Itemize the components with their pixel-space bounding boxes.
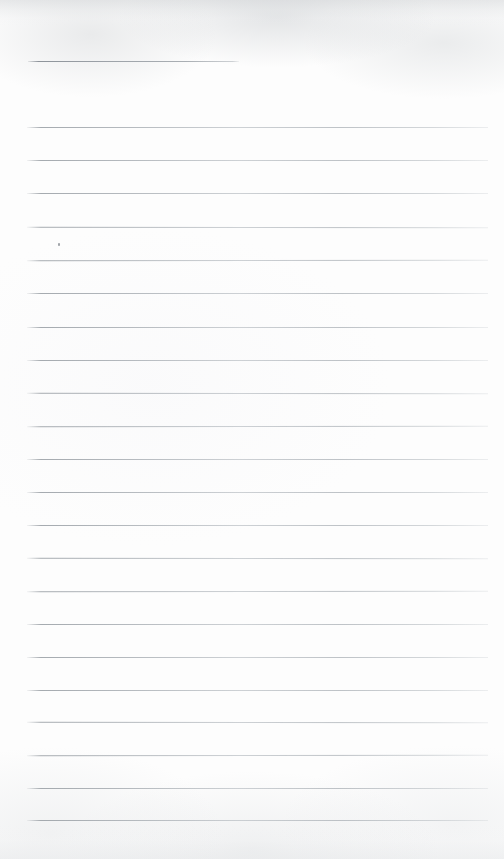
rule-ink: [27, 558, 488, 559]
rule-ink: [27, 393, 488, 394]
rule-ink: [27, 820, 488, 821]
rule-ink: [27, 591, 488, 592]
body-rule-11: [27, 459, 488, 460]
rule-ink: [27, 293, 488, 294]
body-rule-12: [27, 492, 488, 493]
body-rule-4: [27, 227, 488, 228]
rule-ink: [27, 690, 488, 691]
body-rule-17: [27, 657, 488, 658]
rule-ink: [27, 426, 488, 427]
rule-ink: [27, 657, 488, 658]
rule-ink: [27, 459, 488, 460]
body-rule-1: [27, 127, 488, 128]
body-rule-22: [27, 820, 488, 821]
rule-ink: [27, 755, 488, 756]
title-rule: [28, 61, 239, 62]
body-rule-20: [27, 755, 488, 756]
body-rule-3: [27, 193, 488, 194]
rule-ink: [27, 624, 488, 625]
body-rule-19: [27, 722, 488, 723]
scanned-paper-page: [0, 0, 504, 859]
rule-ink: [27, 260, 488, 261]
body-rule-5: [27, 260, 488, 261]
body-rule-7: [27, 327, 488, 328]
rule-ink: [27, 525, 488, 526]
body-rule-21: [27, 788, 488, 789]
body-rule-15: [27, 591, 488, 592]
body-rule-16: [27, 624, 488, 625]
rule-ink: [27, 360, 488, 361]
body-rule-13: [27, 525, 488, 526]
body-rule-6: [27, 293, 488, 294]
paper-speck: [58, 243, 60, 246]
rule-ink: [27, 722, 488, 723]
rule-ink: [27, 788, 488, 789]
rule-ink: [27, 127, 488, 128]
body-rule-8: [27, 360, 488, 361]
bottom-edge-shadow: [0, 825, 504, 859]
body-rule-14: [27, 558, 488, 559]
rule-ink: [27, 193, 488, 194]
rule-ink: [27, 327, 488, 328]
rule-ink: [27, 160, 488, 161]
body-rule-2: [27, 160, 488, 161]
top-edge-shadow: [0, 0, 504, 26]
body-rule-9: [27, 393, 488, 394]
body-rule-10: [27, 426, 488, 427]
rule-ink: [28, 61, 239, 62]
rule-ink: [27, 492, 488, 493]
body-rule-18: [27, 690, 488, 691]
rule-ink: [27, 227, 488, 228]
